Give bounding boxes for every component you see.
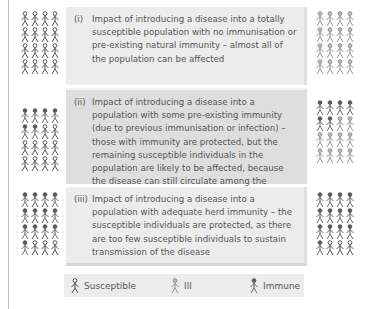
susceptible-person-icon bbox=[30, 43, 40, 59]
immune-person-icon bbox=[20, 124, 30, 140]
immune-person-icon bbox=[20, 224, 30, 240]
legend-item-susceptible: Susceptible bbox=[70, 278, 136, 294]
susceptible-person-icon bbox=[40, 27, 50, 43]
immune-person-icon bbox=[50, 208, 60, 224]
susceptible-person-icon bbox=[40, 124, 50, 140]
immune-person-icon bbox=[40, 108, 50, 124]
ill-person-icon bbox=[345, 11, 355, 27]
ill-person-icon bbox=[345, 43, 355, 59]
population-after-2 bbox=[315, 100, 355, 164]
ill-person-icon bbox=[315, 148, 325, 164]
immune-person-icon bbox=[335, 224, 345, 240]
immune-person-icon bbox=[315, 116, 325, 132]
ill-person-icon bbox=[345, 116, 355, 132]
immune-person-icon bbox=[40, 208, 50, 224]
divider-line bbox=[8, 0, 9, 309]
immune-person-icon bbox=[335, 100, 345, 116]
immune-person-icon bbox=[315, 224, 325, 240]
ill-person-icon bbox=[345, 148, 355, 164]
ill-person-icon bbox=[335, 11, 345, 27]
legend-label: Susceptible bbox=[84, 281, 136, 291]
immune-person-icon bbox=[30, 108, 40, 124]
ill-person-icon bbox=[335, 27, 345, 43]
immune-person-icon bbox=[345, 208, 355, 224]
scenario-number: (iii) bbox=[74, 193, 92, 259]
immune-person-icon bbox=[315, 240, 325, 256]
susceptible-person-icon bbox=[30, 240, 40, 256]
ill-person-icon bbox=[315, 11, 325, 27]
scenario-description: Impact of introducing a disease into a p… bbox=[92, 193, 298, 259]
panel-scenario-1: (i) Impact of introducing a disease into… bbox=[66, 7, 307, 85]
immune-person-icon bbox=[40, 224, 50, 240]
susceptible-person-icon bbox=[50, 27, 60, 43]
susceptible-person-icon bbox=[30, 59, 40, 75]
ill-person-icon bbox=[325, 132, 335, 148]
legend-label: Ill bbox=[184, 281, 192, 291]
immune-person-icon bbox=[345, 100, 355, 116]
immune-person-icon bbox=[20, 208, 30, 224]
ill-person-icon bbox=[335, 59, 345, 75]
ill-person-icon bbox=[325, 43, 335, 59]
immune-person-icon bbox=[345, 224, 355, 240]
scenario-description: Impact of introducing a disease into a t… bbox=[92, 13, 298, 66]
legend-label: Immune bbox=[263, 281, 300, 291]
ill-person-icon bbox=[335, 148, 345, 164]
immune-person-icon bbox=[50, 224, 60, 240]
scenario-description: Impact of introducing a disease into a p… bbox=[92, 96, 298, 202]
ill-person-icon bbox=[315, 132, 325, 148]
population-after-3 bbox=[315, 192, 355, 256]
scenario-number: (ii) bbox=[74, 96, 92, 202]
immune-person-icon bbox=[20, 192, 30, 208]
susceptible-person-icon bbox=[345, 240, 355, 256]
susceptible-person-icon bbox=[335, 240, 345, 256]
immune-person-icon bbox=[30, 192, 40, 208]
susceptible-person-icon bbox=[30, 156, 40, 172]
susceptible-person-icon bbox=[40, 240, 50, 256]
panel-scenario-3: (iii) Impact of introducing a disease in… bbox=[66, 187, 307, 266]
immune-person-icon bbox=[20, 240, 30, 256]
susceptible-person-icon bbox=[50, 240, 60, 256]
ill-person-icon bbox=[170, 278, 180, 294]
legend: Susceptible Ill Immune bbox=[64, 274, 304, 297]
susceptible-person-icon bbox=[20, 156, 30, 172]
immune-person-icon bbox=[335, 208, 345, 224]
legend-item-immune: Immune bbox=[249, 278, 300, 294]
ill-person-icon bbox=[315, 59, 325, 75]
susceptible-person-icon bbox=[50, 43, 60, 59]
susceptible-person-icon bbox=[50, 124, 60, 140]
immune-person-icon bbox=[325, 116, 335, 132]
susceptible-person-icon bbox=[40, 156, 50, 172]
ill-person-icon bbox=[325, 27, 335, 43]
immune-person-icon bbox=[50, 192, 60, 208]
immune-person-icon bbox=[325, 192, 335, 208]
susceptible-person-icon bbox=[325, 240, 335, 256]
ill-person-icon bbox=[325, 11, 335, 27]
ill-person-icon bbox=[335, 132, 345, 148]
immune-person-icon bbox=[20, 108, 30, 124]
susceptible-person-icon bbox=[70, 278, 80, 294]
ill-person-icon bbox=[345, 132, 355, 148]
immune-person-icon bbox=[315, 100, 325, 116]
immune-person-icon bbox=[325, 224, 335, 240]
susceptible-person-icon bbox=[30, 27, 40, 43]
immune-person-icon bbox=[249, 278, 259, 294]
susceptible-person-icon bbox=[40, 11, 50, 27]
immune-person-icon bbox=[325, 208, 335, 224]
susceptible-person-icon bbox=[20, 43, 30, 59]
population-before-2 bbox=[20, 108, 60, 172]
susceptible-person-icon bbox=[20, 11, 30, 27]
immune-person-icon bbox=[345, 192, 355, 208]
ill-person-icon bbox=[335, 116, 345, 132]
susceptible-person-icon bbox=[20, 59, 30, 75]
population-before-3 bbox=[20, 192, 60, 256]
ill-person-icon bbox=[345, 59, 355, 75]
susceptible-person-icon bbox=[40, 140, 50, 156]
ill-person-icon bbox=[335, 43, 345, 59]
susceptible-person-icon bbox=[30, 140, 40, 156]
ill-person-icon bbox=[325, 59, 335, 75]
ill-person-icon bbox=[315, 27, 325, 43]
immune-person-icon bbox=[30, 208, 40, 224]
susceptible-person-icon bbox=[30, 11, 40, 27]
susceptible-person-icon bbox=[50, 11, 60, 27]
susceptible-person-icon bbox=[50, 59, 60, 75]
